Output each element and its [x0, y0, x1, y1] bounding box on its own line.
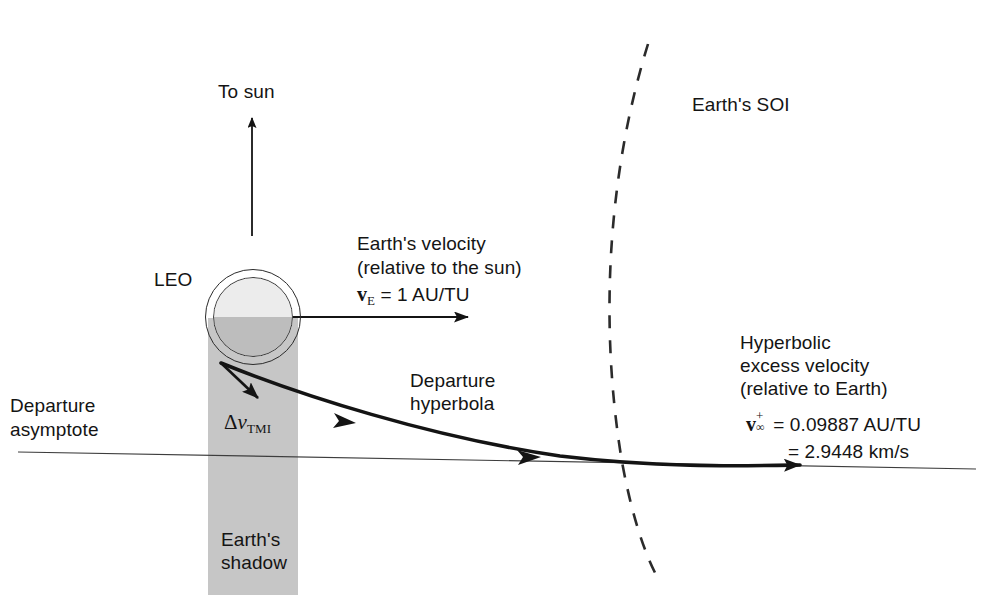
departure-hyperbola-curve — [221, 363, 800, 466]
to-sun-label: To sun — [218, 80, 275, 103]
delta-v-subscript: TMI — [247, 421, 271, 436]
departure-asymptote-label-line2: asymptote — [10, 418, 99, 441]
earth-velocity-subscript: E — [367, 293, 375, 308]
earths-shadow-label-line2: shadow — [221, 551, 287, 574]
departure-hyperbola-diagram: To sun LEO Earth's velocity (relative to… — [0, 0, 988, 613]
earths-soi-arc — [609, 44, 660, 582]
vinf-equation-au: v+∞ = 0.09887 AU/TU — [746, 412, 921, 436]
diagram-vectors — [0, 0, 988, 613]
departure-hyperbola-label-line1: Departure — [410, 369, 495, 392]
departure-hyperbola-label-line2: hyperbola — [410, 392, 494, 415]
earths-soi-label: Earth's SOI — [692, 93, 790, 116]
earth-velocity-label-line1: Earth's velocity — [357, 232, 486, 256]
leo-label: LEO — [154, 268, 192, 291]
leo-orbit-circle — [205, 269, 301, 365]
vinf-value-km-row: = 2.9448 km/s — [788, 440, 909, 463]
vinf-value-km: = 2.9448 km/s — [788, 441, 909, 462]
earth-velocity-label-line2: (relative to the sun) — [357, 256, 522, 280]
vinf-subscript: ∞ — [756, 416, 765, 439]
earth-velocity-symbol: v — [357, 283, 367, 305]
delta-symbol: Δ — [224, 410, 238, 434]
vinf-value-au: = 0.09887 AU/TU — [773, 414, 921, 435]
hyperbolic-excess-label-line2: excess velocity — [740, 354, 869, 377]
earth-velocity-equation: vE = 1 AU/TU — [357, 283, 470, 312]
hyperbolic-excess-label-line3: (relative to Earth) — [740, 377, 888, 400]
hyperbolic-excess-label-line1: Hyperbolic — [740, 331, 831, 354]
departure-asymptote-label-line1: Departure — [10, 394, 95, 417]
delta-v-tmi-label: ΔvTMI — [224, 411, 271, 440]
delta-v-italic-v: v — [238, 410, 247, 434]
delta-v-tmi-arrow — [221, 363, 258, 398]
vinf-symbol: v — [746, 413, 756, 435]
earths-shadow-label-line1: Earth's — [221, 528, 280, 551]
earth-velocity-value: = 1 AU/TU — [381, 284, 470, 305]
vinf-scripts: +∞ — [756, 412, 768, 431]
